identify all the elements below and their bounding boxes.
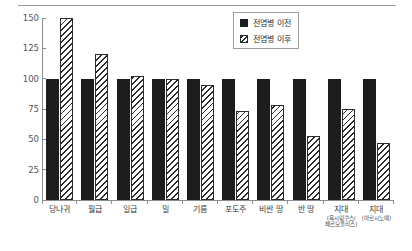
y-tick: 75 [28, 104, 42, 114]
x-axis-label-text: 일급 [123, 205, 137, 214]
y-tick: 150 [23, 13, 42, 23]
y-tick-label: 25 [28, 165, 39, 175]
x-axis-label: 월급 [77, 205, 112, 228]
x-axis-label-text: 지대 [369, 205, 383, 214]
bar-after [271, 105, 284, 200]
bar-group [148, 18, 183, 200]
y-tick-label: 150 [23, 13, 39, 23]
bar-before [222, 79, 235, 200]
bar-before [293, 79, 306, 200]
top-divider [18, 5, 396, 6]
x-tick-mark [288, 200, 323, 204]
bar-after [236, 111, 249, 200]
x-tick-mark [324, 200, 359, 204]
x-axis-label-subnote: (아르시노에) [359, 215, 394, 221]
x-tick-mark [183, 200, 218, 204]
x-tick-mark [77, 200, 112, 204]
bar-after [307, 136, 320, 200]
x-axis-label: 기름 [183, 205, 218, 228]
bar-group [324, 18, 359, 200]
bar-group [42, 18, 77, 200]
bar-before [328, 79, 341, 200]
x-axis-label: 밀 [148, 205, 183, 228]
bar-group [359, 18, 394, 200]
y-tick-label: 75 [28, 104, 39, 114]
x-axis-label-text: 반 땅 [298, 205, 315, 214]
bar-after [60, 18, 73, 200]
x-axis-label-text: 비싼 땅 [259, 205, 283, 214]
bar-after [95, 54, 108, 200]
legend-label-after: 전염병 이후 [253, 33, 291, 44]
x-tick-mark [218, 200, 253, 204]
x-axis-label-text: 포도주 [225, 205, 246, 214]
chart-legend: 전염병 이전 전염병 이후 [233, 12, 299, 49]
bar-before [363, 79, 376, 200]
y-tick-label: 50 [28, 134, 39, 144]
legend-swatch-solid-icon [240, 19, 248, 27]
x-tick-mark [42, 200, 77, 204]
y-tick: 0 [34, 195, 42, 205]
bar-group [77, 18, 112, 200]
y-tick-label: 100 [23, 74, 39, 84]
bar-before [187, 79, 200, 200]
y-tick-label: 125 [23, 43, 39, 53]
x-axis-label-text: 월급 [88, 205, 102, 214]
bar-before [152, 79, 165, 200]
y-tick: 125 [23, 43, 42, 53]
x-axis-label-text: 기름 [193, 205, 207, 214]
bar-after [201, 85, 214, 200]
legend-label-before: 전염병 이전 [253, 17, 291, 28]
bar-before [117, 79, 130, 200]
bar-after [342, 109, 355, 200]
y-tick: 25 [28, 165, 42, 175]
y-tick: 100 [23, 74, 42, 84]
x-axis-label: 당나귀 [42, 205, 77, 228]
x-tick-mark [148, 200, 183, 204]
chart-figure: 150 125 100 75 50 25 0 당나귀월급일급밀기름포도주 [0, 0, 412, 251]
bar-before [81, 79, 94, 200]
x-tick-mark [359, 200, 394, 204]
x-axis-label: 일급 [112, 205, 147, 228]
x-axis-label: 반 땅 [288, 205, 323, 228]
x-tick-marks [42, 200, 394, 204]
bar-after [377, 143, 390, 200]
bar-group [112, 18, 147, 200]
bar-before [46, 79, 59, 200]
x-axis-labels: 당나귀월급일급밀기름포도주비싼 땅반 땅지대(옥시링쿠스/ 헤르모폴리스)지대(… [42, 205, 394, 228]
x-tick-mark [253, 200, 288, 204]
y-tick-label: 0 [34, 195, 39, 205]
bar-before [257, 79, 270, 200]
x-axis-label-text: 밀 [162, 205, 169, 214]
bar-group [183, 18, 218, 200]
legend-item-after: 전염병 이후 [240, 33, 291, 44]
x-axis-label-text: 당나귀 [49, 205, 70, 214]
bar-after [131, 76, 144, 200]
x-axis-label-text: 지대 [334, 205, 348, 214]
legend-item-before: 전염병 이전 [240, 17, 291, 28]
x-axis-label: 포도주 [218, 205, 253, 228]
x-axis-label: 지대(옥시링쿠스/ 헤르모폴리스) [324, 205, 359, 228]
legend-swatch-hatch-icon [240, 35, 248, 43]
y-tick: 50 [28, 134, 42, 144]
bar-after [166, 79, 179, 200]
x-tick-mark [112, 200, 147, 204]
x-axis-label: 비싼 땅 [253, 205, 288, 228]
bar-groups [42, 18, 394, 200]
x-axis-label: 지대(아르시노에) [359, 205, 394, 228]
x-axis-label-subnote: (옥시링쿠스/ 헤르모폴리스) [324, 215, 359, 228]
